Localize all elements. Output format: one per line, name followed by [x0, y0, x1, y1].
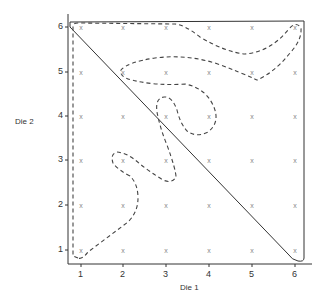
x-axis-title: Die 1: [180, 284, 199, 292]
outcome-marker: x: [164, 24, 168, 31]
outcome-marker: x: [207, 113, 211, 120]
y-tick-label-6: 6: [58, 22, 63, 31]
outcome-marker: x: [164, 113, 168, 120]
x-tick-label-3: 3: [163, 270, 168, 279]
outcome-marker: x: [79, 69, 83, 76]
outcome-marker: x: [293, 24, 297, 31]
outcome-marker: x: [293, 113, 297, 120]
outcome-marker: x: [121, 247, 125, 254]
outcome-marker: x: [164, 202, 168, 209]
dashed-region-boundary: [73, 23, 301, 258]
outcome-marker: x: [79, 202, 83, 209]
solid-region-boundary: [70, 21, 304, 261]
outcome-marker: x: [164, 247, 168, 254]
x-tick-label-6: 6: [292, 270, 297, 279]
outcome-marker: x: [250, 247, 254, 254]
outcome-marker: x: [121, 24, 125, 31]
outcome-marker: x: [121, 113, 125, 120]
y-tick-label-5: 5: [58, 67, 63, 76]
y-tick-label-3: 3: [58, 155, 63, 164]
outcome-marker: x: [250, 157, 254, 164]
outcome-marker: x: [207, 247, 211, 254]
outcome-marker: x: [79, 157, 83, 164]
outcome-marker: x: [207, 202, 211, 209]
outcome-marker: x: [250, 24, 254, 31]
outcome-marker: x: [250, 113, 254, 120]
y-axis-title: Die 2: [15, 118, 34, 126]
outcome-marker: x: [293, 69, 297, 76]
x-tick-label-5: 5: [249, 270, 254, 279]
x-tick-label-1: 1: [78, 270, 83, 279]
outcome-marker: x: [207, 69, 211, 76]
y-tick-label-4: 4: [58, 111, 63, 120]
sample-space-diagram: [0, 0, 319, 300]
outcome-marker: x: [250, 202, 254, 209]
x-tick-label-4: 4: [206, 270, 211, 279]
outcome-marker: x: [121, 202, 125, 209]
outcome-marker: x: [121, 69, 125, 76]
outcome-marker: x: [293, 247, 297, 254]
outcome-marker: x: [79, 113, 83, 120]
outcome-marker: x: [207, 24, 211, 31]
y-tick-label-2: 2: [58, 200, 63, 209]
outcome-marker: x: [79, 24, 83, 31]
outcome-marker: x: [293, 202, 297, 209]
outcome-marker: x: [164, 69, 168, 76]
outcome-marker: x: [207, 157, 211, 164]
y-tick-label-1: 1: [58, 245, 63, 254]
outcome-marker: x: [293, 157, 297, 164]
x-tick-label-2: 2: [120, 270, 125, 279]
outcome-marker: x: [164, 157, 168, 164]
outcome-marker: x: [121, 157, 125, 164]
outcome-marker: x: [79, 247, 83, 254]
outcome-marker: x: [250, 69, 254, 76]
